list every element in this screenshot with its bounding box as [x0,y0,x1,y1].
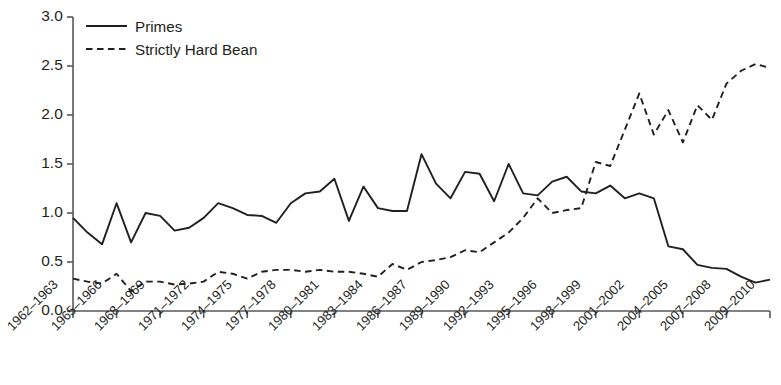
y-tick-label: 2.0 [19,105,63,123]
y-tick-label: 2.5 [19,56,63,74]
series-line-strictly-hard-bean [73,64,770,291]
data-series-group [73,64,770,291]
series-line-primes [73,154,770,282]
legend-label-strictly-hard-bean: Strictly Hard Bean [135,41,257,58]
legend-sample-lines [86,26,127,49]
legend-label-primes: Primes [135,18,182,35]
chart-container: 3.02.52.01.51.00.50.0 1962–19631965–1966… [0,0,781,385]
y-tick-label: 1.0 [19,203,63,221]
y-tick-label: 1.5 [19,154,63,172]
y-tick-label: 0.5 [19,252,63,270]
y-tick-label: 3.0 [19,7,63,25]
